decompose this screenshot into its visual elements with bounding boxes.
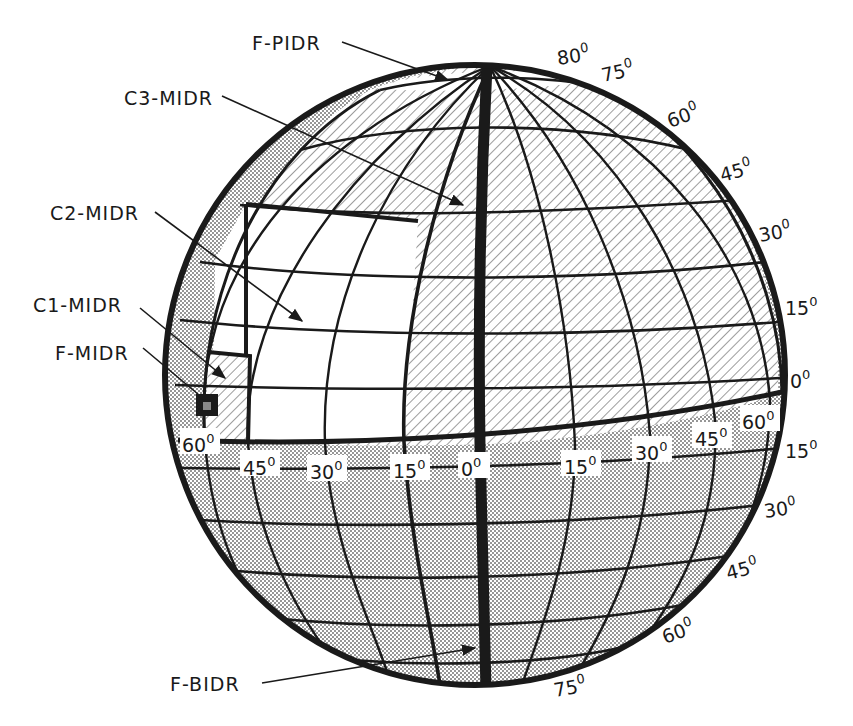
svg-text:300: 300 xyxy=(762,493,798,522)
svg-text:00: 00 xyxy=(790,367,810,392)
label-f-pidr: F-PIDR xyxy=(252,32,321,54)
svg-text:450: 450 xyxy=(717,153,755,186)
label-c3-midr: C3-MIDR xyxy=(124,87,213,109)
label-f-bidr: F-BIDR xyxy=(170,673,240,695)
label-c2-midr: C2-MIDR xyxy=(50,202,139,224)
svg-text:800: 800 xyxy=(555,40,591,69)
svg-text:300: 300 xyxy=(756,216,792,246)
c2-midr-region xyxy=(246,204,418,443)
label-f-midr: F-MIDR xyxy=(55,342,129,364)
svg-text:150: 150 xyxy=(785,294,817,319)
svg-text:600: 600 xyxy=(663,97,702,132)
svg-text:750: 750 xyxy=(599,55,636,86)
globe xyxy=(165,65,785,690)
globe-diagram: F-PIDR C3-MIDR C2-MIDR C1-MIDR F-MIDR F-… xyxy=(0,0,853,726)
svg-text:150: 150 xyxy=(785,437,817,462)
label-c1-midr: C1-MIDR xyxy=(33,294,122,316)
